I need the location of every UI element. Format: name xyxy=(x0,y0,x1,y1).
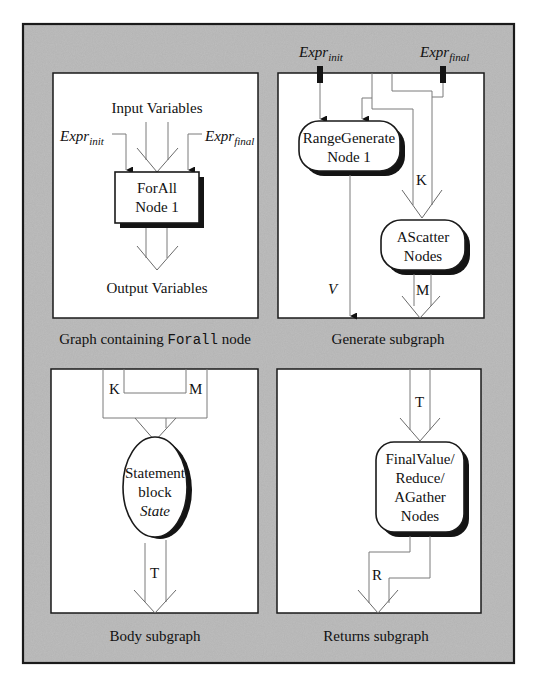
caption-returns-subgraph: Returns subgraph xyxy=(323,628,429,644)
scatter-node-line2: Nodes xyxy=(404,248,442,264)
ret-r-label: R xyxy=(372,567,382,583)
forall-node-line2: Node 1 xyxy=(135,199,179,215)
scatter-node-line1: AScatter xyxy=(397,229,449,245)
forall-diagram: Input Variables Exprinit Exprfinal ForAl… xyxy=(0,0,536,684)
body-k-label: K xyxy=(109,381,120,397)
expr-init-port xyxy=(317,66,323,83)
final-node-line3: AGather xyxy=(394,489,446,505)
final-node-line1: FinalValue/ xyxy=(385,451,455,467)
panel-forall-graph: Input Variables Exprinit Exprfinal ForAl… xyxy=(53,73,258,318)
caption-generate-subgraph: Generate subgraph xyxy=(332,331,445,347)
panel-body-subgraph: K M Statement block State T xyxy=(51,369,258,613)
panel-generate-area xyxy=(278,73,484,318)
statement-node-line2: block xyxy=(138,484,172,500)
final-node-line2: Reduce/ xyxy=(395,470,445,486)
final-node-line4: Nodes xyxy=(401,508,439,524)
forall-node-line1: ForAll xyxy=(137,180,177,196)
statement-node-line3: State xyxy=(140,503,170,519)
ret-t-label: T xyxy=(415,394,424,410)
panel-generate-subgraph: Exprinit Exprfinal RangeGenerate Node 1 … xyxy=(278,44,484,318)
statement-node-line1: Statement xyxy=(125,465,186,481)
range-node-line1: RangeGenerate xyxy=(303,130,396,146)
range-node-line2: Node 1 xyxy=(327,149,371,165)
expr-final-port xyxy=(440,66,446,83)
input-variables-label: Input Variables xyxy=(112,100,203,116)
panel-returns-subgraph: T FinalValue/ Reduce/ AGather Nodes R xyxy=(277,369,481,613)
body-m-label: M xyxy=(189,381,202,397)
m-label: M xyxy=(416,282,429,298)
body-t-label: T xyxy=(150,565,159,581)
caption-forall-graph: Graph containing Forall node xyxy=(59,331,251,348)
caption-body-subgraph: Body subgraph xyxy=(109,628,201,644)
k-label: K xyxy=(416,172,427,188)
output-variables-label: Output Variables xyxy=(107,280,208,296)
